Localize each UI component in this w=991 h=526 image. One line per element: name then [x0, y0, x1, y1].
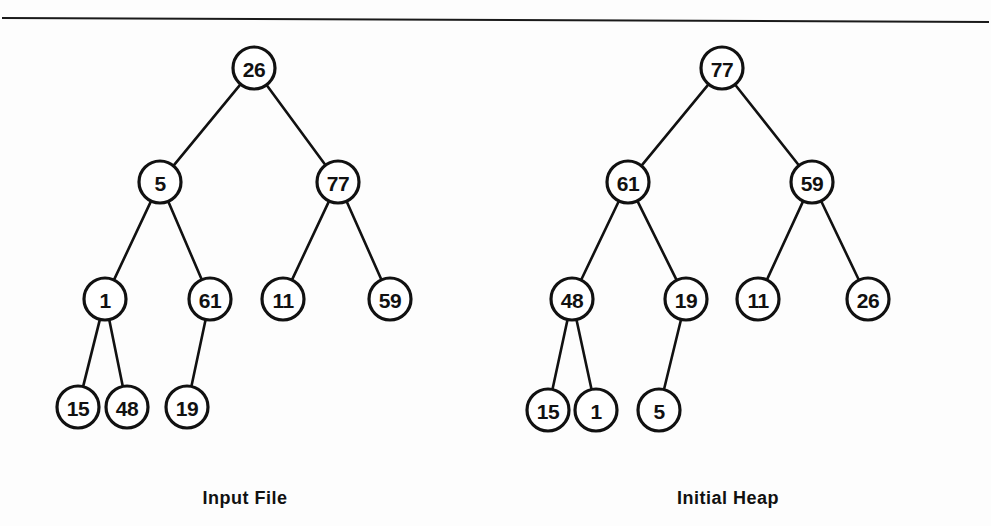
tree-node: 59	[369, 278, 411, 320]
node-label: 61	[617, 172, 640, 195]
node-label: 61	[199, 289, 222, 312]
node-label: 1	[99, 289, 111, 312]
tree-edge	[664, 318, 682, 390]
node-label: 15	[537, 400, 560, 423]
node-label: 19	[176, 397, 198, 420]
tree-edge	[114, 200, 152, 281]
tree-node: 61	[607, 161, 649, 203]
tree-node: 48	[106, 386, 148, 428]
node-label: 15	[67, 397, 90, 420]
node-label: 5	[653, 400, 665, 423]
tree-node: 77	[317, 161, 359, 203]
tree-node: 1	[575, 389, 617, 431]
node-label: 59	[379, 289, 401, 312]
tree-edge	[821, 200, 860, 281]
tree-edge	[734, 84, 799, 167]
figure-container: 265771611159154819776159481911261515 Inp…	[0, 0, 991, 526]
tree-node: 15	[527, 389, 569, 431]
node-label: 48	[561, 289, 584, 312]
node-label: 77	[711, 58, 733, 81]
tree-node: 15	[57, 386, 99, 428]
tree-edge	[766, 200, 803, 281]
node-label: 1	[590, 400, 602, 423]
node-label: 26	[243, 58, 265, 81]
captions-layer: Input FileInitial Heap	[203, 488, 780, 508]
tree-node: 26	[847, 278, 889, 320]
tree-node: 11	[737, 278, 779, 320]
tree-edge	[641, 83, 710, 166]
tree-edge	[346, 200, 382, 280]
tree-node: 19	[665, 278, 707, 320]
tree-node: 59	[791, 161, 833, 203]
tree-node: 11	[262, 278, 304, 320]
tree-node: 5	[139, 161, 181, 203]
node-label: 48	[116, 397, 139, 420]
horizontal-rule	[2, 18, 989, 22]
node-label: 59	[801, 172, 823, 195]
tree-diagram-svg: 265771611159154819776159481911261515 Inp…	[0, 0, 991, 526]
tree-node: 1	[84, 278, 126, 320]
tree-edge	[637, 200, 677, 281]
node-label: 19	[675, 289, 697, 312]
tree-edge	[173, 83, 242, 166]
tree-edges-layer	[83, 83, 860, 390]
tree-edge	[576, 319, 592, 391]
panel-caption: Initial Heap	[677, 488, 779, 508]
tree-edge	[266, 84, 326, 166]
node-label: 77	[327, 172, 349, 195]
tree-edge	[191, 319, 206, 388]
tree-node: 77	[701, 47, 743, 89]
tree-node: 19	[166, 386, 208, 428]
tree-edge	[83, 318, 100, 387]
tree-edge	[109, 319, 123, 388]
node-label: 11	[747, 289, 769, 312]
top-rule-layer	[2, 18, 989, 22]
tree-edge	[168, 200, 202, 280]
tree-node: 61	[189, 278, 231, 320]
tree-node: 48	[551, 278, 593, 320]
tree-edge	[292, 200, 330, 281]
node-label: 11	[272, 289, 294, 312]
tree-nodes-layer: 265771611159154819776159481911261515	[57, 47, 889, 431]
tree-edge	[581, 200, 620, 281]
panel-caption: Input File	[203, 488, 288, 508]
node-label: 5	[154, 172, 166, 195]
node-label: 26	[857, 289, 879, 312]
tree-node: 5	[638, 389, 680, 431]
tree-node: 26	[233, 47, 275, 89]
tree-edge	[552, 319, 568, 391]
